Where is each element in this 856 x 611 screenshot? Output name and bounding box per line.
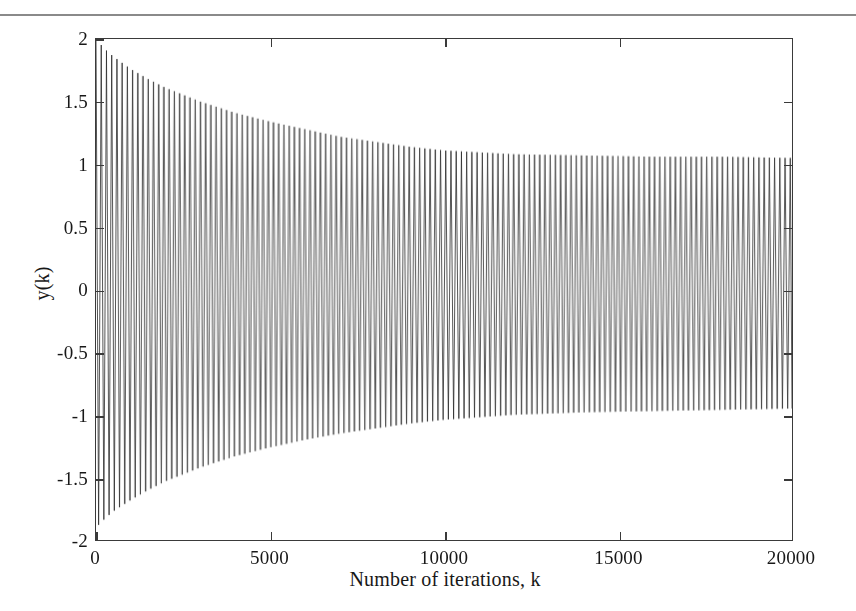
ytick-label: -0.5	[57, 343, 88, 362]
ytick-mark	[96, 228, 104, 230]
ytick-mark	[784, 479, 792, 481]
xtick-label: 0	[90, 548, 100, 567]
ytick-label: -1	[72, 406, 88, 425]
xtick-mark	[445, 39, 447, 47]
ytick-mark	[96, 102, 104, 104]
ytick-label: 0	[78, 280, 88, 299]
xtick-mark	[271, 39, 273, 47]
page-rule-divider	[0, 14, 856, 16]
ytick-label: 1	[78, 155, 88, 174]
plot-canvas	[96, 39, 792, 540]
ytick-label: 0.5	[64, 218, 88, 237]
ytick-label: -2	[72, 531, 88, 550]
x-axis-title: Number of iterations, k	[0, 568, 856, 591]
ytick-mark	[784, 228, 792, 230]
ytick-mark	[784, 102, 792, 104]
ytick-mark	[96, 353, 104, 355]
ytick-mark	[96, 39, 104, 41]
ytick-mark	[784, 353, 792, 355]
ytick-mark	[96, 416, 104, 418]
xtick-mark	[96, 532, 98, 540]
xtick-label: 15000	[594, 548, 643, 567]
xtick-mark	[620, 532, 622, 540]
ytick-mark	[784, 165, 792, 167]
xtick-mark	[445, 532, 447, 540]
ytick-mark	[96, 291, 104, 293]
figure-container: 2 1.5 1 0.5 0 -0.5 -1 -1.5 -2 0 5000 100…	[0, 0, 856, 611]
y-axis-title: y(k)	[31, 224, 54, 344]
ytick-mark	[96, 165, 104, 167]
xtick-label: 20000	[767, 548, 816, 567]
xtick-mark	[271, 532, 273, 540]
xtick-mark	[792, 532, 793, 540]
xtick-mark	[620, 39, 622, 47]
ytick-mark	[784, 291, 792, 293]
ytick-label: 1.5	[64, 92, 88, 111]
ytick-mark	[96, 479, 104, 481]
ytick-label: -1.5	[57, 469, 88, 488]
ytick-mark	[784, 416, 792, 418]
xtick-label: 5000	[250, 548, 289, 567]
xtick-label: 10000	[420, 548, 469, 567]
ytick-label: 2	[78, 29, 88, 48]
ytick-mark	[96, 540, 104, 541]
plot-frame	[95, 38, 793, 541]
